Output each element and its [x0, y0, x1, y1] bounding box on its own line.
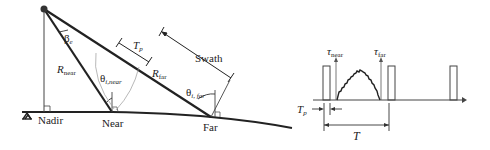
- tau-far-label: τfar: [374, 45, 386, 59]
- pulse-1: [323, 66, 330, 100]
- r-near-label: Rnear: [56, 63, 76, 77]
- theta-near-label: θi,near: [100, 72, 122, 86]
- tp-label: Tp: [133, 39, 143, 53]
- echo-envelope: [337, 70, 380, 100]
- r-near-line: [44, 9, 112, 112]
- geometry-diagram: βe Rnear θi,near Rfar Tp Swath θi, far N…: [22, 6, 292, 134]
- theta-far-label: θi, far: [186, 86, 205, 100]
- period-dimension: [324, 103, 389, 131]
- tau-near-label: τnear: [327, 45, 344, 59]
- r-far-label: Rfar: [151, 67, 167, 81]
- period-arrow-left-icon: [324, 123, 329, 127]
- far-right-angle: [215, 112, 220, 117]
- pulse-2: [388, 66, 395, 100]
- time-axis-arrow-icon: [462, 97, 467, 103]
- r-far-line: [44, 9, 211, 117]
- isorange-arc-far: [116, 67, 139, 110]
- tp-arrow-left-icon: [319, 107, 324, 111]
- nadir-ground-symbol: [22, 113, 32, 119]
- nadir-label: Nadir: [38, 114, 63, 126]
- period-arrow-right-icon: [384, 123, 389, 127]
- period-label: T: [353, 129, 361, 143]
- pulse-3: [450, 66, 457, 100]
- satellite-icon: [41, 6, 48, 13]
- far-label: Far: [203, 121, 218, 133]
- beta-label: βe: [64, 32, 73, 46]
- timing-diagram: τnear τfar Tp T: [297, 45, 467, 143]
- tp-pulse-width-dimension: [312, 103, 342, 131]
- tp-pulse-label: Tp: [297, 103, 307, 117]
- swath-label: Swath: [195, 52, 223, 64]
- near-label: Near: [102, 117, 124, 129]
- tp-arrow-right-icon: [330, 107, 335, 111]
- sar-geometry-figure: βe Rnear θi,near Rfar Tp Swath θi, far N…: [0, 0, 490, 150]
- far-line-ext: [211, 80, 230, 117]
